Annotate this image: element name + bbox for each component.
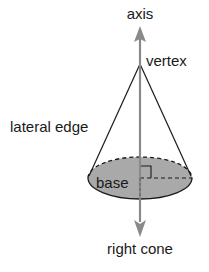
- base-label: base: [96, 174, 129, 191]
- cone-figure: axis vertex lateral edge base right cone: [0, 0, 209, 272]
- right-cone-diagram: axis vertex lateral edge base right cone: [0, 0, 209, 272]
- axis-arrow-down-icon: [134, 220, 146, 237]
- caption-label: right cone: [107, 240, 173, 257]
- vertex-label: vertex: [146, 52, 187, 69]
- lateral-edge-label: lateral edge: [10, 118, 88, 135]
- axis-label: axis: [127, 5, 154, 22]
